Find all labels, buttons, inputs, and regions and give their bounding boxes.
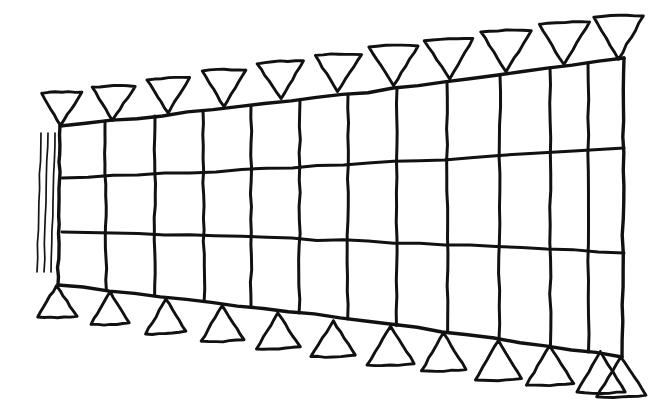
vertical-web-3 bbox=[203, 111, 205, 301]
vertical-web-10 bbox=[550, 68, 551, 347]
sketch-canvas bbox=[0, 0, 660, 411]
vertical-web-5 bbox=[299, 100, 301, 313]
vertical-web-7 bbox=[396, 88, 397, 325]
vertical-web-11 bbox=[588, 63, 589, 352]
vertical-web-4 bbox=[250, 106, 251, 307]
vertical-web-8 bbox=[447, 82, 448, 332]
vertical-web-6 bbox=[347, 94, 348, 319]
vertical-web-9 bbox=[499, 75, 501, 340]
structural-sketch bbox=[0, 0, 660, 411]
right-edge-post bbox=[622, 58, 624, 357]
vertical-web-2 bbox=[154, 116, 155, 296]
